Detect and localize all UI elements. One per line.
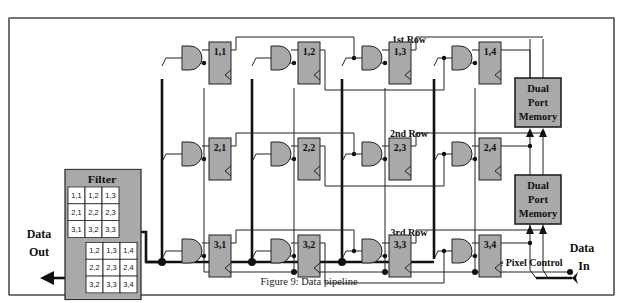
svg-text:1,3: 1,3: [105, 192, 116, 198]
and-gate-icon: [362, 239, 382, 263]
data-out-arrow-icon: [40, 271, 54, 285]
svg-text:Dual: Dual: [527, 180, 549, 191]
svg-text:1,3: 1,3: [106, 248, 117, 254]
register-label: 1,1: [214, 46, 227, 57]
svg-text:1,2: 1,2: [89, 248, 100, 254]
register-2-1: 2,1: [209, 138, 231, 180]
svg-text:3,2: 3,2: [88, 226, 99, 232]
and-gate-icon: [271, 46, 291, 70]
and-gate-icon: [362, 46, 382, 70]
svg-text:3,3: 3,3: [105, 226, 116, 232]
svg-text:Port: Port: [528, 97, 548, 108]
filter-title: Filter: [88, 174, 117, 185]
register-1-3: 1,3: [389, 42, 411, 84]
svg-text:Dual: Dual: [527, 83, 549, 94]
and-gate-icon: [182, 46, 202, 70]
and-gate-icon: [271, 142, 291, 166]
svg-text:2,1: 2,1: [71, 209, 82, 215]
and-gate-icon: [452, 142, 472, 166]
dual-port-memory-2: Dual Port Memory: [515, 175, 561, 224]
register-2-3: 2,3: [389, 138, 411, 180]
and-gate-icon: [452, 46, 472, 70]
svg-text:2,2: 2,2: [89, 265, 100, 271]
register-3-3: 3,3: [389, 235, 411, 277]
filter-block: Filter 1,11,21,32,12,22,33,13,23,31,21,3…: [65, 169, 141, 299]
svg-text:1,1: 1,1: [71, 192, 82, 198]
register-label: 3,2: [303, 239, 316, 250]
register-label: 2,1: [214, 142, 227, 153]
register-3-2: 3,2: [298, 235, 320, 277]
svg-text:2,3: 2,3: [106, 265, 117, 271]
svg-text:2,4: 2,4: [123, 265, 134, 271]
register-label: 1,2: [303, 46, 316, 57]
register-1-4: 1,4: [479, 42, 501, 84]
data-in-arrow-icon: [572, 272, 578, 284]
register-2-2: 2,2: [298, 138, 320, 180]
svg-text:2,3: 2,3: [105, 209, 116, 215]
svg-text:Memory: Memory: [519, 208, 558, 219]
register-label: 1,4: [484, 46, 497, 57]
register-1-1: 1,1: [209, 42, 231, 84]
svg-text:1,2: 1,2: [88, 192, 99, 198]
and-gate-icon: [452, 239, 472, 263]
register-3-4: 3,4: [479, 235, 501, 277]
register-label: 3,3: [394, 239, 407, 250]
figure-caption: Figure 9: Data pipeline: [260, 276, 357, 287]
svg-text:Memory: Memory: [519, 111, 558, 122]
data-in-label-2: In: [578, 259, 590, 273]
and-gate-icon: [271, 239, 291, 263]
and-gate-icon: [362, 142, 382, 166]
and-gate-icon: [182, 142, 202, 166]
register-1-2: 1,2: [298, 42, 320, 84]
row-label-2: 2nd Row: [390, 128, 429, 139]
register-label: 3,1: [214, 239, 227, 250]
dual-port-memory-1: Dual Port Memory: [515, 78, 561, 127]
register-label: 2,3: [394, 142, 407, 153]
data-in-label-1: Data: [570, 241, 595, 255]
svg-text:1,4: 1,4: [123, 248, 134, 254]
data-out-label-1: Data: [27, 227, 52, 241]
svg-text:3,1: 3,1: [71, 226, 82, 232]
data-out-label-2: Out: [29, 245, 49, 259]
register-label: 3,4: [484, 239, 497, 250]
data-pipeline-diagram: 1st Row 2nd Row 3rd Row Data Out Data In…: [0, 0, 618, 303]
register-label: 1,3: [394, 46, 407, 57]
svg-text:2,2: 2,2: [88, 209, 99, 215]
register-label: 2,2: [303, 142, 316, 153]
register-2-4: 2,4: [479, 138, 501, 180]
register-label: 2,4: [484, 142, 497, 153]
and-gate-icon: [182, 239, 202, 263]
svg-text:3,4: 3,4: [123, 282, 134, 288]
register-3-1: 3,1: [209, 235, 231, 277]
svg-text:3,2: 3,2: [89, 282, 100, 288]
svg-text:Port: Port: [528, 194, 548, 205]
svg-text:3,3: 3,3: [106, 282, 117, 288]
